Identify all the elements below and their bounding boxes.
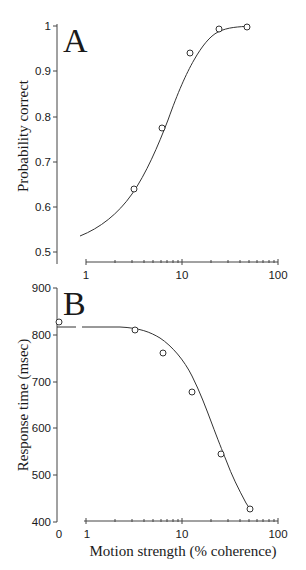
panel-a-letter: A <box>63 22 88 59</box>
data-point <box>216 26 222 32</box>
y-tick-label: 0.5 <box>35 246 51 258</box>
y-tick-label: 0.8 <box>35 111 51 123</box>
data-point <box>187 50 193 56</box>
x-tick-label: 10 <box>176 269 189 281</box>
data-point <box>131 186 137 192</box>
chart-svg: 1 0.9 0.8 0.7 0.6 0.5 Probability correc… <box>0 0 306 570</box>
x-tick-label: 1 <box>84 528 90 540</box>
data-point <box>247 506 253 512</box>
data-point <box>218 451 224 457</box>
y-tick-label: 0.6 <box>35 201 51 213</box>
x-tick-label: 100 <box>268 269 287 281</box>
x-tick-label: 100 <box>268 528 287 540</box>
y-tick-label: 0.9 <box>35 65 51 77</box>
figure: 1 0.9 0.8 0.7 0.6 0.5 Probability correc… <box>0 0 306 570</box>
panel-b-letter: B <box>63 285 86 322</box>
y-tick-label: 0.7 <box>35 156 51 168</box>
x-tick-label: 1 <box>83 269 89 281</box>
panel-b-y-axis-title: Response time (msec) <box>15 339 32 471</box>
data-point <box>56 319 62 325</box>
panel-a-fit-curve <box>80 26 250 236</box>
panel-a-x-tick-labels: 1 10 100 <box>83 269 288 281</box>
x-tick-label: 10 <box>176 528 189 540</box>
y-tick-label: 1 <box>45 20 51 32</box>
y-tick-label: 700 <box>32 376 51 388</box>
panel-a-y-axis-title: Probability correct <box>15 79 31 192</box>
y-tick-label: 400 <box>32 516 51 528</box>
data-point <box>244 24 250 30</box>
data-point <box>160 350 166 356</box>
y-tick-label: 600 <box>32 422 51 434</box>
panel-b: 900 800 700 600 500 400 Response time (m… <box>15 282 288 560</box>
panel-a-y-ticks <box>53 26 57 252</box>
panel-b-x-tick-labels: 0 1 10 100 <box>56 528 288 540</box>
panel-a-data-points <box>131 24 250 192</box>
panel-a: 1 0.9 0.8 0.7 0.6 0.5 Probability correc… <box>15 20 288 281</box>
y-tick-label: 900 <box>32 282 51 294</box>
data-point <box>132 327 138 333</box>
panel-a-y-tick-labels: 1 0.9 0.8 0.7 0.6 0.5 <box>35 20 51 258</box>
panel-b-x-ticks <box>86 518 278 524</box>
panel-b-x-axis-title: Motion strength (% coherence) <box>89 543 276 560</box>
data-point <box>189 389 195 395</box>
panel-b-data-points <box>56 319 253 512</box>
panel-b-y-tick-labels: 900 800 700 600 500 400 <box>32 282 51 528</box>
y-tick-label: 800 <box>32 329 51 341</box>
x-tick-label: 0 <box>56 528 62 540</box>
panel-a-x-ticks <box>86 259 278 265</box>
y-tick-label: 500 <box>32 469 51 481</box>
data-point <box>159 125 165 131</box>
